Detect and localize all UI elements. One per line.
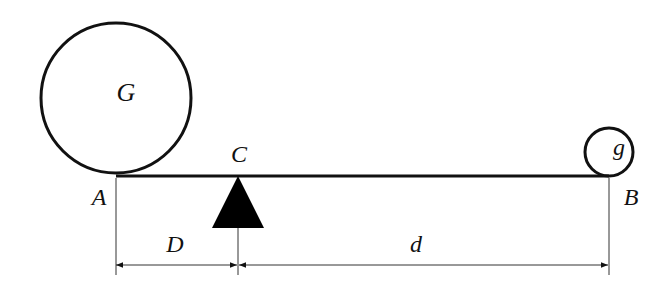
label-right-end: B [624, 184, 639, 210]
label-small-mass: g [613, 134, 625, 160]
label-big-mass: G [117, 78, 136, 107]
lever-diagram: G g C A B D d [0, 0, 669, 296]
label-left-distance: D [165, 231, 183, 257]
label-right-distance: d [410, 231, 423, 257]
small-mass-circle [585, 128, 633, 176]
label-left-end: A [90, 184, 107, 210]
fulcrum-triangle [212, 176, 264, 228]
label-fulcrum: C [231, 141, 248, 167]
